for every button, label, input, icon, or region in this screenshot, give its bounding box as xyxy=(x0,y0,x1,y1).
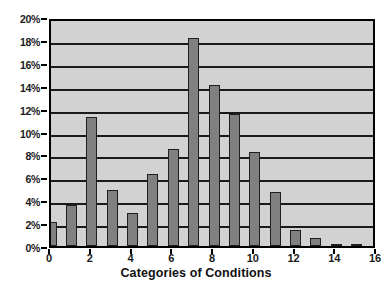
x-tick-mark xyxy=(48,249,50,254)
y-tick-mark xyxy=(41,178,47,180)
bar xyxy=(168,149,179,246)
plot-area xyxy=(49,19,375,248)
y-tick-label: 2% xyxy=(25,219,40,231)
x-tick-mark xyxy=(89,249,91,254)
x-tick-mark xyxy=(333,249,335,254)
y-tick-label: 8% xyxy=(25,150,40,162)
y-tick-mark xyxy=(41,133,47,135)
bar xyxy=(49,222,57,246)
x-axis-title: Categories of Conditions xyxy=(0,266,392,280)
y-tick-label: 10% xyxy=(20,128,40,140)
bar xyxy=(249,152,260,246)
bar xyxy=(351,244,362,246)
y-tick-label: 6% xyxy=(25,173,40,185)
y-tick-label: 12% xyxy=(20,105,40,117)
y-tick-mark xyxy=(41,201,47,203)
bar xyxy=(127,213,138,246)
x-tick-mark xyxy=(211,249,213,254)
x-tick-mark xyxy=(130,249,132,254)
y-tick-label: 14% xyxy=(20,82,40,94)
bar-chart: 0%2%4%6%8%10%12%14%16%18%20% 02468101214… xyxy=(0,0,392,294)
bar xyxy=(86,117,97,246)
bar xyxy=(66,205,77,246)
bar xyxy=(290,230,301,246)
y-tick-label: 20% xyxy=(20,13,40,25)
y-tick-mark xyxy=(41,155,47,157)
y-tick-mark xyxy=(41,18,47,20)
bar xyxy=(147,174,158,246)
y-tick-mark xyxy=(41,64,47,66)
bar xyxy=(310,238,321,246)
bar xyxy=(229,114,240,246)
x-tick-mark xyxy=(170,249,172,254)
y-tick-label: 4% xyxy=(25,196,40,208)
y-tick-mark xyxy=(41,87,47,89)
x-tick-mark xyxy=(374,249,376,254)
y-tick-mark xyxy=(41,224,47,226)
x-tick-mark xyxy=(252,249,254,254)
y-tick-label: 18% xyxy=(20,36,40,48)
y-tick-mark xyxy=(41,41,47,43)
bars-layer xyxy=(51,21,373,246)
bar xyxy=(188,38,199,246)
y-tick-label: 16% xyxy=(20,59,40,71)
bar xyxy=(107,190,118,246)
y-tick-mark xyxy=(41,110,47,112)
bar xyxy=(331,244,342,246)
bar xyxy=(209,85,220,246)
x-tick-mark xyxy=(293,249,295,254)
bar xyxy=(270,192,281,246)
